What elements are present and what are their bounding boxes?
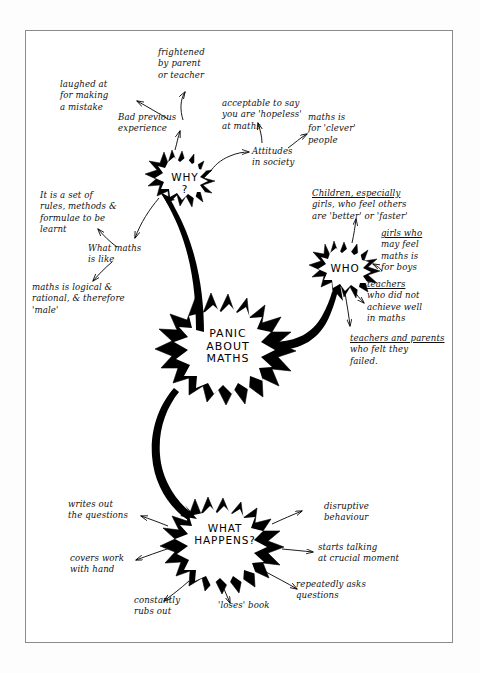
label-covers-work-with-hand: covers work with hand <box>70 553 150 576</box>
label-repeatedly-asks-questions: repeatedly asks questions <box>296 579 392 602</box>
label-maths-for-clever-people: maths is for 'clever' people <box>308 112 384 146</box>
node-why-label[interactable]: WHY ? <box>157 171 213 195</box>
label-set-of-rules: It is a set of rules, methods & formulae… <box>40 190 132 235</box>
label-attitudes-in-society: Attitudes in society <box>252 146 322 169</box>
label-maths-is-logical: maths is logical & rational, & therefore… <box>32 282 150 316</box>
label-bad-previous-experience: Bad previous experience <box>118 112 206 135</box>
label-girls-may-feel-maths-for-boys: girls who may feel maths is for boys <box>381 228 447 273</box>
label-frightened: frightened by parent or teacher <box>158 47 250 81</box>
label-teachers-who-did-not-achieve: teachers who did not achieve well in mat… <box>367 279 445 324</box>
mindmap-canvas: WHY ? WHO PANIC ABOUT MATHS WHAT HAPPENS… <box>0 0 480 673</box>
label-loses-book: 'loses' book <box>218 600 290 611</box>
label-children-especially-girls: Children, especially girls, who feel oth… <box>312 188 442 222</box>
node-who-label[interactable]: WHO <box>317 262 373 274</box>
label-disruptive-behaviour: disruptive behaviour <box>324 501 404 524</box>
label-teachers-and-parents-failed: teachers and parents who felt they faile… <box>350 333 454 367</box>
label-constantly-rubs-out: constantly rubs out <box>134 595 204 618</box>
node-panic-label[interactable]: PANIC ABOUT MATHS <box>183 328 273 366</box>
label-starts-talking: starts talking at crucial moment <box>318 542 424 565</box>
label-writes-out-questions: writes out the questions <box>68 499 152 522</box>
label-what-maths-is-like: What maths is like <box>88 243 162 266</box>
label-laughed-at: laughed at for making a mistake <box>60 79 144 113</box>
node-what-happens-label[interactable]: WHAT HAPPENS? <box>181 522 269 546</box>
